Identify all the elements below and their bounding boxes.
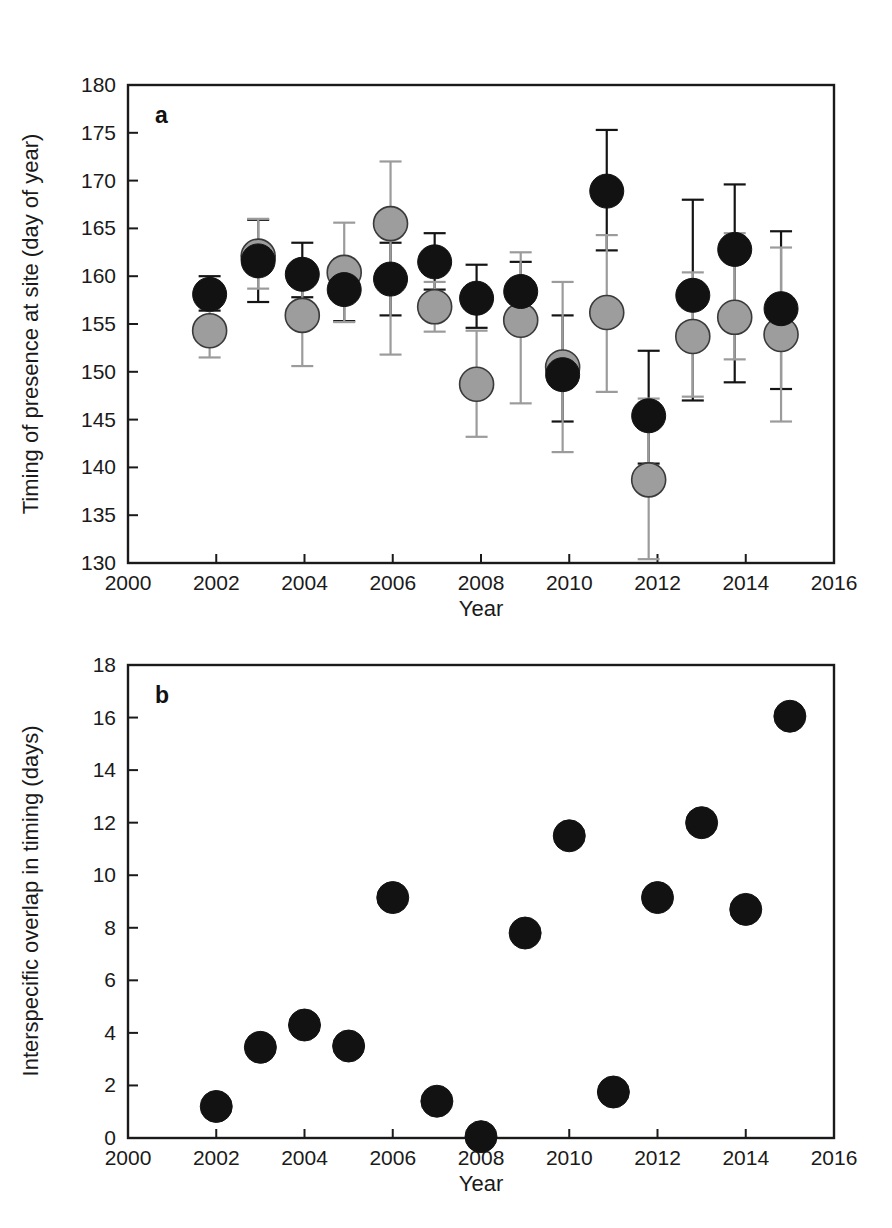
data-point-grey: [418, 290, 452, 324]
y-tick-label: 8: [104, 916, 116, 939]
y-tick-label: 135: [81, 503, 116, 526]
panel-b-data-points: [200, 700, 806, 1152]
data-point-black: [676, 278, 710, 312]
x-tick-label: 2016: [811, 571, 858, 594]
data-point-overlap: [200, 1090, 232, 1122]
data-point-black: [632, 399, 666, 433]
data-point-grey: [460, 367, 494, 401]
data-point-black: [193, 277, 227, 311]
data-point-overlap: [465, 1121, 497, 1153]
x-tick-label: 2006: [369, 1146, 416, 1169]
panel-b-plot-frame: [128, 665, 834, 1138]
data-point-black: [546, 358, 580, 392]
x-tick-label: 2006: [369, 571, 416, 594]
panel-a-y-ticks: [128, 133, 138, 515]
data-point-grey: [285, 298, 319, 332]
y-tick-label: 12: [93, 811, 116, 834]
y-tick-label: 150: [81, 360, 116, 383]
data-point-overlap: [730, 893, 762, 925]
y-tick-label: 6: [104, 968, 116, 991]
x-tick-label: 2014: [722, 1146, 769, 1169]
panel-a: 130135140145150155160165170175180 200020…: [18, 73, 857, 621]
data-point-grey: [193, 314, 227, 348]
x-tick-label: 2016: [811, 1146, 858, 1169]
panel-b-y-axis-title: Interspecific overlap in timing (days): [18, 726, 43, 1077]
data-point-black: [285, 257, 319, 291]
data-point-black: [764, 292, 798, 326]
panel-a-x-tick-labels: 200020022004200620082010201220142016: [105, 571, 858, 594]
panel-a-x-ticks: [216, 554, 746, 563]
y-tick-label: 10: [93, 863, 116, 886]
data-point-overlap: [686, 807, 718, 839]
x-tick-label: 2004: [281, 571, 328, 594]
data-point-overlap: [377, 882, 409, 914]
data-point-overlap: [597, 1076, 629, 1108]
data-point-black: [718, 232, 752, 266]
panel-a-x-axis-title: Year: [459, 596, 503, 621]
data-point-grey: [590, 296, 624, 330]
error-bar: [380, 161, 402, 354]
x-tick-label: 2012: [634, 1146, 681, 1169]
data-point-black: [418, 245, 452, 279]
data-point-grey: [374, 207, 408, 241]
data-point-black: [327, 273, 361, 307]
x-tick-label: 2000: [105, 1146, 152, 1169]
data-point-overlap: [509, 917, 541, 949]
y-tick-label: 180: [81, 73, 116, 96]
data-point-grey: [632, 463, 666, 497]
data-point-overlap: [774, 700, 806, 732]
x-tick-label: 2010: [546, 1146, 593, 1169]
y-tick-label: 4: [104, 1021, 116, 1044]
y-tick-label: 18: [93, 653, 116, 676]
panel-b-x-axis-title: Year: [459, 1171, 503, 1196]
panel-a-data-points: [193, 174, 798, 497]
data-point-black: [504, 274, 538, 308]
panel-b: 024681012141618 200020022004200620082010…: [18, 653, 857, 1196]
data-point-overlap: [333, 1030, 365, 1062]
x-tick-label: 2002: [193, 571, 240, 594]
data-point-overlap: [553, 820, 585, 852]
y-tick-label: 14: [93, 758, 117, 781]
data-point-overlap: [421, 1085, 453, 1117]
data-point-black: [374, 262, 408, 296]
data-point-black: [241, 244, 275, 278]
y-tick-label: 155: [81, 312, 116, 335]
panel-b-y-ticks: [128, 718, 138, 1086]
data-point-grey: [718, 300, 752, 334]
panel-a-y-axis-title: Timing of presence at site (day of year): [18, 134, 43, 515]
panel-b-y-tick-labels: 024681012141618: [93, 653, 117, 1149]
panel-b-letter: b: [155, 682, 169, 708]
data-point-black: [590, 174, 624, 208]
data-point-overlap: [642, 882, 674, 914]
panel-a-y-tick-labels: 130135140145150155160165170175180: [81, 73, 116, 574]
y-tick-label: 2: [104, 1073, 116, 1096]
y-tick-label: 165: [81, 216, 116, 239]
data-point-black: [460, 281, 494, 315]
y-tick-label: 175: [81, 121, 116, 144]
data-point-overlap: [289, 1009, 321, 1041]
two-panel-scatter-figure: 130135140145150155160165170175180 200020…: [0, 0, 892, 1228]
y-tick-label: 16: [93, 706, 116, 729]
x-tick-label: 2008: [458, 571, 505, 594]
figure-container: 130135140145150155160165170175180 200020…: [0, 0, 892, 1228]
x-tick-label: 2010: [546, 571, 593, 594]
x-tick-label: 2004: [281, 1146, 328, 1169]
data-point-grey: [676, 319, 710, 353]
panel-a-letter: a: [155, 102, 168, 128]
x-tick-label: 2012: [634, 571, 681, 594]
y-tick-label: 170: [81, 169, 116, 192]
data-point-overlap: [244, 1031, 276, 1063]
x-tick-label: 2000: [105, 571, 152, 594]
y-tick-label: 160: [81, 264, 116, 287]
y-tick-label: 140: [81, 455, 116, 478]
x-tick-label: 2014: [722, 571, 769, 594]
y-tick-label: 145: [81, 408, 116, 431]
x-tick-label: 2002: [193, 1146, 240, 1169]
